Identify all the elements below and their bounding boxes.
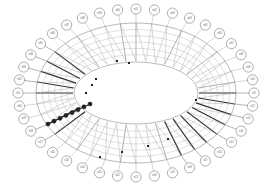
highlight-chain-layer [46,102,92,126]
graph-node[interactable]: n07 [226,39,236,49]
graph-node[interactable]: n29 [19,114,29,124]
graph-node[interactable]: n10 [247,75,257,85]
inner-mark [147,145,149,147]
node-label: n05 [203,23,208,27]
graph-node[interactable]: n04 [184,13,194,23]
lattice-rung [113,49,124,51]
node-label: n33 [22,65,27,69]
graph-node[interactable]: n13 [243,114,253,124]
lattice-rung [192,70,198,75]
graph-node[interactable]: n26 [47,147,57,157]
lattice-rung [78,129,88,134]
graph-node[interactable]: n34 [26,50,36,60]
lattice-rung [49,75,52,84]
graph-node[interactable]: n22 [112,171,122,181]
lattice-rung [214,101,217,109]
node-label: n16 [217,150,222,154]
graph-node[interactable]: n37 [62,20,72,30]
lattice-rung [123,143,136,144]
lattice-rung [220,64,226,73]
lattice-rung [74,47,84,53]
graph-node[interactable]: n14 [236,126,246,136]
graph-node[interactable]: n40 [112,5,122,15]
graph-node[interactable]: n16 [214,147,224,157]
lattice-rung [42,83,43,93]
graph-node[interactable]: n33 [19,62,29,72]
graph-node[interactable]: n23 [94,168,104,178]
lattice-rung [60,48,70,56]
graph-node[interactable]: n25 [62,156,72,166]
lattice-rung [64,107,69,113]
lattice-rung [202,130,212,138]
graph-node[interactable]: n20 [149,171,159,181]
graph-node[interactable]: n39 [94,8,104,18]
graph-node[interactable]: n17 [200,156,210,166]
node-label: n22 [115,173,120,177]
lattice-rung [179,36,192,41]
lattice-rung [67,87,68,93]
lattice-rung [197,113,203,119]
graph-node[interactable]: n06 [214,29,224,39]
inner-mark [99,156,101,158]
graph-node[interactable]: n18 [184,163,194,173]
graph-node[interactable]: n08 [236,50,246,60]
lattice-rung [170,53,180,57]
graph-node[interactable]: n31 [13,88,23,98]
node-label: n10 [250,77,255,81]
lattice-rung [202,99,205,105]
graph-node[interactable]: n05 [200,20,210,30]
lattice-rung [92,129,102,133]
diagonal-brace [181,116,217,135]
lattice-rung [121,29,136,30]
graph-node[interactable]: n02 [149,5,159,15]
lattice-rung [148,49,159,51]
lattice-rung [70,138,81,144]
graph-node[interactable]: n36 [47,29,57,39]
inner-mark [167,138,169,140]
graph-node[interactable]: n15 [226,137,236,147]
lattice-rung [207,59,214,67]
graph-node[interactable]: n30 [14,101,24,111]
lattice-rung [115,129,126,130]
graph-node[interactable]: n27 [35,137,45,147]
lattice-rung [149,142,161,144]
node-label: n25 [64,158,69,162]
graph-node[interactable]: n38 [77,13,87,23]
lattice-rung [99,138,111,141]
lattice-rung [93,32,107,36]
node-label: n14 [239,129,244,133]
inner-mark [128,62,130,64]
lattice-rung [216,85,217,93]
lattice-rung [219,102,222,111]
diagonal-brace [187,112,225,125]
lattice-rung [88,134,99,138]
graph-node[interactable]: n11 [249,88,259,98]
lattice-rung [214,77,217,85]
graph-node[interactable]: n19 [167,168,177,178]
lattice-rung [212,122,220,131]
lattice-rung [204,93,205,99]
graph-node[interactable]: n12 [247,101,257,111]
lattice-rung [56,77,59,85]
lattice-rung [151,154,165,156]
graph-node[interactable]: n21 [131,172,141,182]
graph-node[interactable]: n35 [35,39,45,49]
lattice-rung [179,145,192,150]
lattice-rung [136,137,148,138]
node-label: n35 [38,41,43,45]
lattice-rung [188,134,198,140]
graph-node[interactable]: n09 [243,62,253,72]
lattice-rung [65,127,74,134]
diagonal-brace [173,31,181,67]
lattice-rung [229,93,230,103]
node-label: n04 [187,16,192,20]
graph-node[interactable]: n32 [14,75,24,85]
lattice-rung [105,127,115,129]
graph-node[interactable]: n28 [26,126,36,136]
lattice-rung [95,124,104,127]
lattice-rung [109,148,122,150]
graph-node[interactable]: n01 [131,4,141,14]
graph-node[interactable]: n03 [167,8,177,18]
graph-node[interactable]: n24 [77,163,87,173]
lattice-rung [99,44,111,47]
